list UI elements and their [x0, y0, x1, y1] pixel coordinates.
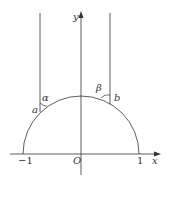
angle-beta-arc — [101, 95, 110, 98]
origin-label: O — [73, 155, 81, 166]
angle-alpha-label: α — [42, 92, 49, 103]
tick-pos-one: 1 — [137, 155, 143, 166]
y-axis-arrow-icon — [79, 11, 84, 18]
diagram-canvas: y x O −1 1 a b α β — [0, 0, 170, 201]
point-a-label: a — [32, 104, 38, 115]
tick-neg-one: −1 — [18, 155, 33, 166]
angle-beta-label: β — [95, 82, 102, 93]
angle-alpha-arc — [40, 103, 47, 106]
point-b-label: b — [114, 92, 120, 103]
x-axis-label: x — [152, 155, 158, 166]
y-axis-label: y — [72, 11, 79, 22]
